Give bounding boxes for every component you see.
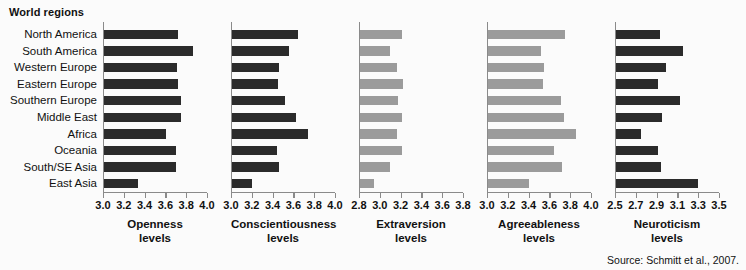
region-label: Western Europe [14, 59, 97, 76]
x-axis-tick-label: 3.4 [521, 199, 536, 211]
x-axis-tick-label: 3.6 [286, 199, 301, 211]
bar [232, 79, 278, 89]
bar [616, 46, 683, 56]
x-axis-tick-label: 3.8 [307, 199, 322, 211]
bar [488, 146, 554, 156]
x-axis-tick [549, 193, 550, 198]
panel-caption-line1: Openness [103, 218, 207, 232]
panel-caption-line2: levels [615, 232, 719, 246]
x-axis-tick-label: 3.4 [265, 199, 280, 211]
x-axis-tick-label: 3.0 [223, 199, 238, 211]
panel-caption-agreeableness: Agreeablenesslevels [487, 218, 591, 245]
x-axis-tick-label: 3.6 [158, 199, 173, 211]
x-axis-tick [529, 193, 530, 198]
x-axis-line [231, 192, 335, 193]
panel-agreeableness: 3.03.23.43.63.84.0Agreeablenesslevels [487, 26, 591, 270]
panel-caption-line1: Extraversion [359, 218, 463, 232]
x-axis-tick [463, 193, 464, 198]
plot-area-neuroticism: 2.52.72.93.13.33.5 [615, 26, 719, 192]
x-axis-tick-label: 4.0 [327, 199, 342, 211]
bar [360, 30, 402, 40]
x-axis-tick [657, 193, 658, 198]
x-axis-tick [314, 193, 315, 198]
x-axis-tick [487, 193, 488, 198]
bar [232, 113, 296, 123]
x-axis-tick-label: 3.2 [500, 199, 515, 211]
bar [616, 179, 698, 189]
x-axis-tick [124, 193, 125, 198]
bar [488, 79, 543, 89]
x-axis-tick-label: 2.7 [628, 199, 643, 211]
x-axis-tick [252, 193, 253, 198]
x-axis-tick [508, 193, 509, 198]
bar [360, 63, 397, 73]
bar [488, 63, 544, 73]
x-axis-tick-label: 3.6 [435, 199, 450, 211]
x-axis-tick [591, 193, 592, 198]
bar [488, 96, 561, 106]
region-label: Oceania [54, 142, 97, 159]
bar [104, 146, 176, 156]
plot-area-conscientiousness: 3.03.23.43.63.84.0 [231, 26, 335, 192]
x-axis-tick [207, 193, 208, 198]
bar [616, 96, 680, 106]
chart-figure: World regions North AmericaSouth America… [0, 0, 746, 270]
x-axis-line [359, 192, 463, 193]
region-label: South America [22, 43, 97, 60]
x-axis-line [103, 192, 207, 193]
plot-area-openness: 3.03.23.43.63.84.0 [103, 26, 207, 192]
panel-caption-line2: levels [231, 232, 335, 246]
region-label: Middle East [37, 109, 97, 126]
bar [232, 63, 279, 73]
bar [104, 63, 177, 73]
bar [616, 162, 661, 172]
x-axis-tick-label: 4.0 [583, 199, 598, 211]
x-axis-tick [186, 193, 187, 198]
x-axis-tick [145, 193, 146, 198]
bar [360, 179, 374, 189]
region-label: North America [24, 26, 97, 43]
bar [616, 79, 658, 89]
region-label: Africa [68, 126, 97, 143]
panel-openness: 3.03.23.43.63.84.0Opennesslevels [103, 26, 207, 270]
region-label: Eastern Europe [17, 76, 97, 93]
x-axis-tick-label: 3.0 [372, 199, 387, 211]
bar [488, 129, 576, 139]
panel-caption-line2: levels [103, 232, 207, 246]
x-axis-tick-label: 4.0 [199, 199, 214, 211]
bar [360, 46, 390, 56]
x-axis-tick [273, 193, 274, 198]
x-axis-tick [401, 193, 402, 198]
bar [232, 162, 279, 172]
x-axis-tick-label: 3.2 [244, 199, 259, 211]
panel-caption-extraversion: Extraversionlevels [359, 218, 463, 245]
x-axis-tick [442, 193, 443, 198]
x-axis-tick-label: 2.8 [351, 199, 366, 211]
x-axis-tick-label: 3.6 [542, 199, 557, 211]
bar [616, 146, 658, 156]
x-axis-tick-label: 3.8 [563, 199, 578, 211]
bar [232, 96, 285, 106]
x-axis-tick [380, 193, 381, 198]
x-axis-tick [231, 193, 232, 198]
bar [232, 179, 252, 189]
bar [104, 129, 166, 139]
bar [232, 146, 277, 156]
x-axis-tick [359, 193, 360, 198]
bar [104, 79, 178, 89]
bar [488, 179, 529, 189]
x-axis-tick [719, 193, 720, 198]
x-axis-tick-label: 3.0 [95, 199, 110, 211]
source-note: Source: Schmitt et al., 2007. [607, 254, 739, 266]
region-label: East Asia [49, 175, 97, 192]
bar [616, 113, 662, 123]
x-axis-tick [103, 193, 104, 198]
bar [360, 96, 398, 106]
x-axis-tick-label: 3.5 [711, 199, 726, 211]
x-axis-line [615, 192, 719, 193]
bar [104, 179, 138, 189]
x-axis-tick-label: 3.8 [455, 199, 470, 211]
panel-extraversion: 2.83.03.23.43.63.8Extraversionlevels [359, 26, 463, 270]
bar [488, 113, 564, 123]
plot-area-extraversion: 2.83.03.23.43.63.8 [359, 26, 463, 192]
